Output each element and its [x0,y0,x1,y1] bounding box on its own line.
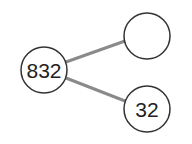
node-part-bottom: 32 [124,86,170,132]
node-whole-label: 832 [26,59,61,82]
node-part-top[interactable] [124,13,170,59]
node-part-bottom-label: 32 [135,98,158,121]
edge-whole-to-bottom [66,78,125,101]
node-whole: 832 [21,47,67,93]
edge-whole-to-top [66,41,125,62]
number-bond-diagram: 832 32 [0,0,192,144]
